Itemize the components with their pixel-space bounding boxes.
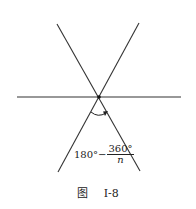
formula-left: 180°−	[74, 149, 106, 160]
caption-id: I-8	[104, 187, 119, 200]
angle-formula: 180°− 360° n	[74, 143, 134, 165]
fraction-denominator: n	[117, 155, 123, 165]
diagram-canvas	[0, 0, 196, 209]
formula-fraction: 360° n	[107, 143, 133, 165]
figure-caption: 图 I-8	[0, 184, 196, 200]
caption-prefix: 图	[77, 187, 88, 200]
intersection-point	[97, 95, 101, 99]
